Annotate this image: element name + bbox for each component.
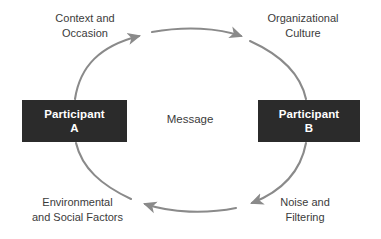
label-environmental-and-social-factors-line2: and Social Factors (10, 210, 145, 225)
message-label-text: Message (140, 112, 240, 127)
participant-b-box: Participant B (258, 100, 360, 142)
label-organizational-culture-line1: Organizational (248, 11, 358, 26)
label-noise-and-filtering-line1: Noise and (255, 195, 355, 210)
participant-a-title: Participant (44, 107, 105, 121)
arrow-into-participant-a (76, 143, 131, 199)
participant-b-identifier: B (305, 121, 313, 135)
label-organizational-culture-line2: Culture (248, 26, 358, 41)
label-environmental-and-social-factors-line1: Environmental (10, 195, 145, 210)
label-context-and-occasion-line1: Context and (35, 11, 135, 26)
message-label: Message (140, 112, 240, 127)
arrow-into-participant-b (250, 41, 306, 99)
arrow-a-to-top-arc (75, 36, 139, 99)
label-organizational-culture: Organizational Culture (248, 11, 358, 41)
communication-cycle-diagram: Participant A Participant B Message Cont… (0, 0, 381, 239)
arrow-top-to-b-arc (152, 29, 241, 36)
arrow-b-to-bottom-arc (252, 143, 306, 203)
label-noise-and-filtering-line2: Filtering (255, 210, 355, 225)
participant-a-box: Participant A (22, 100, 127, 142)
participant-b-title: Participant (279, 107, 340, 121)
label-noise-and-filtering: Noise and Filtering (255, 195, 355, 225)
arrow-bottom-to-a-arc (145, 204, 236, 212)
label-context-and-occasion: Context and Occasion (35, 11, 135, 41)
label-environmental-and-social-factors: Environmental and Social Factors (10, 195, 145, 225)
participant-a-identifier: A (70, 121, 78, 135)
label-context-and-occasion-line2: Occasion (35, 26, 135, 41)
